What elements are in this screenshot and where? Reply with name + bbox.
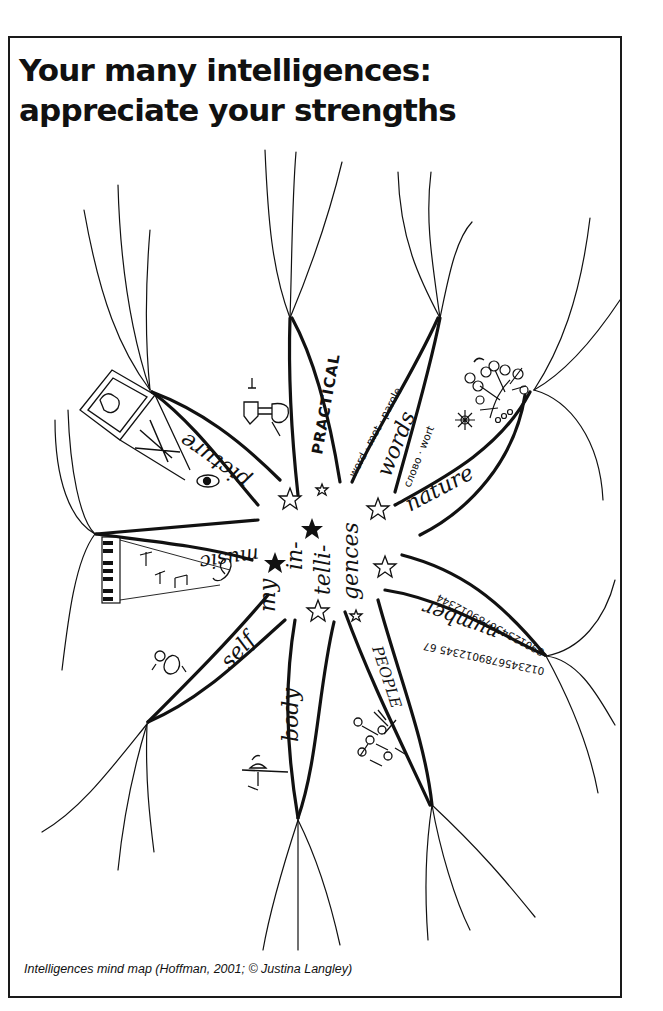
star-icon — [374, 556, 396, 577]
branch-picture — [84, 185, 280, 505]
mind-map-diagram: PRACTICAL words word · mot · parole слов… — [0, 0, 663, 1011]
label-picture: picture — [175, 428, 255, 494]
sun-icon — [455, 410, 475, 430]
star-icon — [307, 600, 329, 621]
center-line-gences: gences — [338, 522, 363, 600]
filled-star-icon — [301, 518, 323, 539]
figure-caption: Intelligences mind map (Hoffman, 2001; ©… — [24, 962, 352, 976]
center-line-telli: telli- — [310, 545, 335, 595]
label-self: self — [215, 624, 263, 673]
star-icon — [350, 610, 362, 621]
meditating-person-icon — [152, 651, 186, 674]
center-line-in: in- — [282, 541, 307, 570]
star-icon — [367, 498, 389, 519]
star-icon — [316, 484, 328, 495]
tree-icon — [455, 358, 528, 430]
music-note-icon — [140, 552, 187, 588]
label-body: body — [278, 688, 303, 742]
branch-number — [385, 555, 615, 793]
dancer-icon — [242, 756, 288, 791]
branch-music — [55, 410, 258, 670]
branch-body — [263, 620, 340, 950]
branch-practical — [265, 150, 342, 495]
center-line-my: my — [255, 578, 280, 612]
hammer-icon — [244, 378, 288, 436]
